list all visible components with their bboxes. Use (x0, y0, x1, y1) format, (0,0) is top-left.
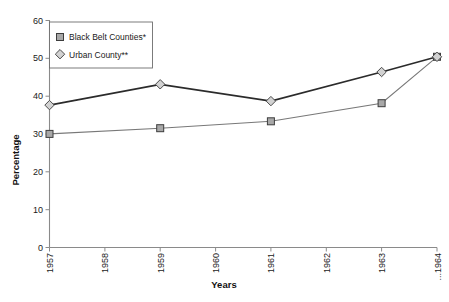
x-tick-label-1960: 1960 (211, 253, 221, 273)
y-tick-label-40: 40 (33, 91, 43, 101)
x-tick-label-1959: 1959 (156, 253, 166, 273)
line-chart: 0 10 20 30 40 50 60 1957 1958 1959 1960 … (0, 0, 449, 302)
y-axis-title: Percentage (10, 134, 21, 185)
chart-legend: Black Belt Counties* Urban County** (50, 22, 153, 68)
y-tick-label-50: 50 (33, 53, 43, 63)
y-tick-label-60: 60 (33, 16, 43, 26)
x-tick-label-1957: 1957 (45, 253, 55, 273)
x-tick-label-1964: ...1964 (433, 253, 443, 281)
legend-label-black-belt-counties: Black Belt Counties* (69, 32, 147, 42)
y-tick-label-20: 20 (33, 167, 43, 177)
x-tick-label-1963: 1963 (377, 253, 387, 273)
legend-marker-square-icon (57, 34, 64, 41)
y-tick-label-10: 10 (33, 205, 43, 215)
x-tick-label-1962: 1962 (322, 253, 332, 273)
x-axis-title: Years (211, 279, 236, 290)
legend-label-urban-county: Urban County** (69, 50, 129, 60)
y-tick-label-0: 0 (38, 243, 43, 253)
x-tick-marks (50, 248, 438, 252)
y-tick-label-30: 30 (33, 129, 43, 139)
legend-box (50, 22, 153, 68)
x-tick-label-1958: 1958 (100, 253, 110, 273)
x-tick-label-1961: 1961 (266, 253, 276, 273)
chart-canvas: 0 10 20 30 40 50 60 1957 1958 1959 1960 … (0, 0, 449, 302)
